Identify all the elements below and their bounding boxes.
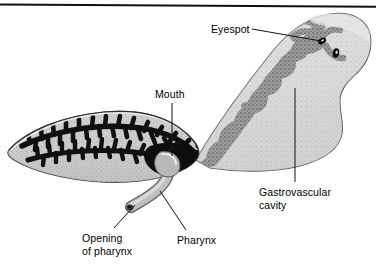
label-pharynx: Pharynx bbox=[177, 234, 216, 247]
label-mouth: Mouth bbox=[155, 88, 185, 101]
label-eyespot: Eyespot bbox=[211, 23, 250, 36]
label-gastrovascular-cavity-line2: cavity bbox=[259, 199, 286, 211]
top-rule bbox=[0, 5, 376, 7]
planarian-diagram-figure: Eyespot Mouth Gastrovascularcavity Openi… bbox=[0, 0, 376, 273]
label-opening-of-pharynx-line2: of pharynx bbox=[82, 245, 132, 257]
leader-pharynx bbox=[160, 191, 186, 230]
label-opening-of-pharynx: Openingof pharynx bbox=[82, 232, 132, 257]
label-gastrovascular-cavity-line1: Gastrovascular bbox=[259, 186, 331, 198]
posterior-body-region bbox=[195, 13, 371, 178]
label-gastrovascular-cavity: Gastrovascularcavity bbox=[259, 186, 331, 211]
label-opening-of-pharynx-line1: Opening bbox=[82, 232, 122, 244]
planarian-illustration bbox=[0, 0, 376, 273]
anterior-lobe-region bbox=[8, 111, 221, 185]
leader-opening-of-pharynx bbox=[114, 205, 135, 228]
